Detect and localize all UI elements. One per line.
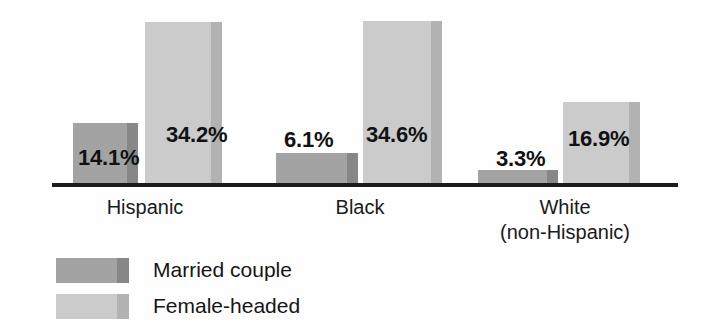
swatch-side-shadow: [117, 258, 129, 283]
value-label-hispanic-married: 14.1%: [78, 147, 139, 169]
legend-item-female-headed: Female-headed: [56, 288, 300, 324]
value-label-white-female: 16.9%: [568, 128, 629, 150]
swatch-face: [56, 258, 117, 283]
swatch-face: [56, 294, 117, 319]
bar-face: [276, 153, 347, 185]
legend-label-married-couple: Married couple: [153, 258, 292, 282]
legend-label-female-headed: Female-headed: [153, 294, 300, 318]
legend-swatch-married-couple: [56, 258, 129, 283]
bar-face: [363, 21, 431, 185]
category-label-white: White (non-Hispanic): [465, 195, 665, 245]
legend-swatch-female-headed: [56, 294, 129, 319]
bar-side-shadow: [347, 153, 358, 185]
legend-item-married-couple: Married couple: [56, 252, 300, 288]
bar-side-shadow: [629, 102, 640, 185]
plot-area: 14.1% 34.2% 6.1% 34.6% 3.3% 16.9%: [0, 0, 723, 190]
chart-legend: Married couple Female-headed: [56, 252, 300, 324]
category-label-hispanic: Hispanic: [55, 195, 235, 220]
swatch-side-shadow: [117, 294, 129, 319]
bar-face: [145, 22, 211, 185]
value-label-white-married: 3.3%: [496, 148, 545, 170]
bar-side-shadow: [431, 21, 442, 185]
value-label-black-married: 6.1%: [284, 129, 333, 151]
value-label-hispanic-female: 34.2%: [166, 124, 227, 146]
x-axis-line: [52, 183, 678, 187]
category-label-black: Black: [270, 195, 450, 220]
bar-chart: 14.1% 34.2% 6.1% 34.6% 3.3% 16.9%: [0, 0, 723, 333]
bar-black-female: [363, 21, 442, 185]
value-label-black-female: 34.6%: [366, 124, 427, 146]
bar-black-married: [276, 153, 358, 185]
bar-side-shadow: [211, 22, 222, 185]
bar-hispanic-female: [145, 22, 222, 185]
